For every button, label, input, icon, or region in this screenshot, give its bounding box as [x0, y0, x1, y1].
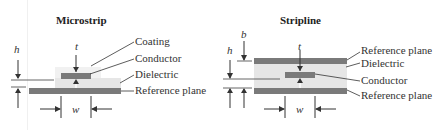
stripline-dielectric-label: Dielectric: [361, 57, 404, 69]
microstrip-conductor: [61, 73, 91, 79]
microstrip-t-label: t: [75, 40, 78, 52]
stripline-w-label: w: [296, 103, 303, 115]
stripline-b-label: b: [241, 28, 247, 40]
microstrip-conductor-label: Conductor: [135, 52, 181, 64]
stripline-reference-plane-bottom-label: Reference plane: [361, 89, 432, 101]
microstrip-reference-plane-label: Reference plane: [135, 84, 206, 96]
stripline-conductor: [285, 72, 315, 78]
microstrip-reference-plane: [29, 88, 121, 94]
microstrip-dielectric-label: Dielectric: [135, 68, 178, 80]
dielectric-layer: [55, 78, 121, 88]
stripline-conductor-label: Conductor: [361, 74, 407, 86]
stripline-reference-plane-top-label: Reference plane: [361, 44, 432, 56]
stripline-diagram: [223, 41, 360, 118]
stripline-reference-plane-bottom: [254, 88, 347, 94]
coating-label: Coating: [135, 35, 170, 47]
stripline-title: Stripline: [280, 14, 321, 26]
stripline-h-label: h: [227, 44, 233, 56]
microstrip-h-label: h: [14, 43, 20, 55]
stripline-t-label: t: [298, 40, 301, 52]
microstrip-w-label: w: [72, 103, 79, 115]
